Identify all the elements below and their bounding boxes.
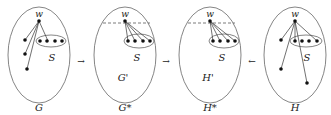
diagram: w S G → w S G' G* → [0,0,331,115]
vertices [279,19,319,85]
panel-label: H [290,102,300,113]
inner-graph-label: H' [201,72,213,83]
edges [281,21,317,83]
subset-s-label: S [49,52,56,63]
arrow-left-icon: ← [248,56,256,66]
panel-label: G* [119,102,132,113]
subset-s-label: S [134,52,141,63]
edges [25,21,48,69]
panel-label: G [35,102,43,113]
subset-s-label: S [219,52,226,63]
vertex-w-label: w [206,9,214,19]
subset-s-label: S [304,52,311,63]
arrow-right-icon: → [77,56,85,66]
panel-h: w S H [264,7,326,113]
panel-g: w S G [8,7,70,113]
vertex-w-label: w [121,9,129,19]
vertices [23,19,64,71]
panel-g-star: w S G' G* [94,7,156,113]
vertex-w-label: w [35,9,43,19]
panel-h-star: w S H' H* [179,7,241,113]
vertex-w-label: w [291,9,299,19]
inner-graph-label: G' [118,72,129,83]
edges [125,21,150,41]
edges [210,21,235,41]
arrow-right-icon: → [162,56,170,66]
panel-label: H* [202,102,217,113]
